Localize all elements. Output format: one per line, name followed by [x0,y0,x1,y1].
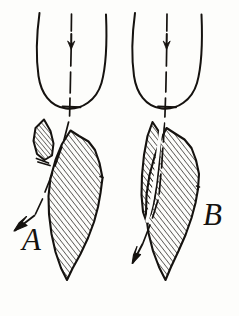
block-edge-notch-a [100,177,103,178]
base-tick-a [63,107,81,108]
base-tick-b [158,107,176,108]
hand-drawn-diagram: A B [0,0,239,316]
panel-label-b: B [203,197,222,232]
figure-canvas: A B [0,0,239,316]
panel-label-a: A [20,222,42,257]
block-edge-notch-b [197,186,200,187]
